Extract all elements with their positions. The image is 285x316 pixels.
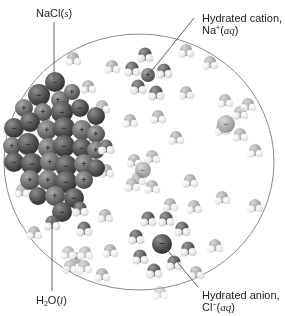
svg-text:+: + — [47, 157, 52, 167]
svg-text:−: − — [140, 165, 145, 175]
svg-text:−: − — [61, 123, 66, 133]
faint-hydrated-anion-center: − — [124, 150, 160, 194]
water-o: O — [48, 294, 57, 306]
svg-text:−: − — [71, 193, 76, 203]
svg-text:−: − — [79, 143, 84, 153]
svg-text:+: + — [52, 191, 57, 201]
svg-text:−: − — [11, 123, 16, 133]
cation-ion: Na — [202, 24, 216, 36]
svg-text:−: − — [77, 103, 82, 113]
water-h: H — [36, 294, 44, 306]
svg-text:+: + — [27, 175, 32, 185]
label-hydrated-cation: Hydrated cation, Na+(aq) — [202, 12, 282, 36]
svg-text:−: − — [61, 141, 66, 151]
svg-text:−: − — [59, 207, 64, 217]
hydrated-cation-na: + — [124, 48, 173, 101]
svg-text:+: + — [45, 143, 50, 153]
svg-text:+: + — [69, 87, 74, 97]
cation-title: Hydrated cation, — [202, 12, 282, 24]
svg-text:+: + — [145, 70, 150, 80]
nacl-formula: NaCl — [36, 7, 60, 19]
svg-text:−: − — [59, 107, 64, 117]
svg-text:+: + — [81, 159, 86, 169]
svg-text:+: + — [55, 95, 60, 105]
anion-state: aq — [220, 301, 231, 313]
cation-charge: + — [216, 24, 220, 31]
svg-text:−: − — [223, 119, 228, 129]
hydrated-anion-cl: − — [128, 212, 197, 279]
anion-title: Hydrated anion, — [202, 289, 280, 301]
svg-text:−: − — [27, 117, 32, 127]
svg-text:+: + — [45, 175, 50, 185]
svg-text:−: − — [36, 90, 41, 100]
cation-formula: Na+(aq) — [202, 24, 282, 36]
svg-text:−: − — [11, 157, 16, 167]
anion-ion: Cl — [202, 301, 212, 313]
svg-text:+: + — [81, 175, 86, 185]
svg-text:−: − — [63, 161, 68, 171]
svg-text:+: + — [93, 129, 98, 139]
svg-text:−: − — [29, 159, 34, 169]
svg-text:−: − — [159, 238, 165, 249]
nacl-crystal-lattice: + + + + + + + + + + + + + + + + − − − − … — [3, 72, 115, 237]
svg-text:−: − — [63, 177, 68, 187]
svg-text:+: + — [9, 141, 14, 151]
svg-text:+: + — [74, 254, 79, 263]
label-water-liquid: H2O(l) — [36, 294, 67, 306]
svg-text:+: + — [44, 125, 49, 135]
anion-charge: − — [212, 301, 216, 308]
faint-hydrated-cation: + — [60, 246, 93, 274]
svg-text:+: + — [93, 145, 98, 155]
water-state: l — [60, 294, 63, 306]
cation-state: aq — [224, 24, 235, 36]
svg-text:−: − — [52, 77, 57, 87]
svg-text:+: + — [79, 125, 84, 135]
label-hydrated-anion: Hydrated anion, Cl−(aq) — [202, 289, 280, 313]
svg-text:+: + — [21, 103, 26, 113]
label-nacl-solid: NaCl(s) — [36, 7, 72, 19]
svg-text:+: + — [40, 107, 45, 117]
svg-text:−: − — [25, 139, 30, 149]
nacl-state: s — [64, 7, 68, 19]
nacl-dissolution-diagram: + − − — [0, 0, 285, 316]
anion-formula: Cl−(aq) — [202, 301, 280, 313]
